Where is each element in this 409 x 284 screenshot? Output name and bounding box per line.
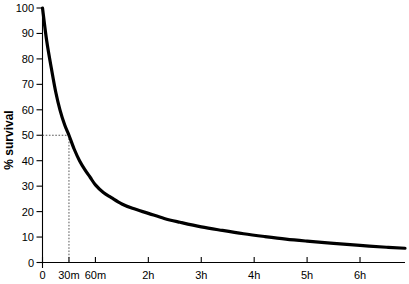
x-tick-label: 0 [39, 269, 45, 281]
x-tick-label: 2h [142, 269, 154, 281]
y-axis-group: 0102030405060708090100 % survival [2, 2, 43, 269]
y-tick-label: 20 [22, 206, 34, 218]
y-tick-marks [37, 8, 43, 263]
y-axis-title: % survival [2, 110, 16, 169]
x-tick-label: 60m [85, 269, 106, 281]
y-tick-label: 60 [22, 104, 34, 116]
x-axis-group: 030m60m2h3h4h5h6h [39, 257, 405, 281]
x-tick-label: 3h [195, 269, 207, 281]
survival-decay-chart: 0102030405060708090100 % survival 030m60… [0, 0, 409, 284]
x-tick-label: 6h [354, 269, 366, 281]
y-tick-label: 90 [22, 27, 34, 39]
y-tick-label: 70 [22, 78, 34, 90]
survival-curve [43, 8, 406, 248]
y-tick-label: 40 [22, 155, 34, 167]
y-tick-label: 80 [22, 53, 34, 65]
y-tick-label: 50 [22, 129, 34, 141]
y-tick-labels: 0102030405060708090100 [16, 2, 34, 269]
x-tick-labels: 030m60m2h3h4h5h6h [39, 269, 366, 281]
x-tick-label: 4h [248, 269, 260, 281]
y-tick-label: 100 [16, 2, 34, 14]
y-tick-label: 30 [22, 180, 34, 192]
x-tick-label: 5h [301, 269, 313, 281]
x-tick-label: 30m [58, 269, 79, 281]
y-tick-label: 0 [28, 257, 34, 269]
chart-canvas: 0102030405060708090100 % survival 030m60… [0, 0, 409, 284]
half-life-guides [43, 135, 69, 262]
y-tick-label: 10 [22, 231, 34, 243]
